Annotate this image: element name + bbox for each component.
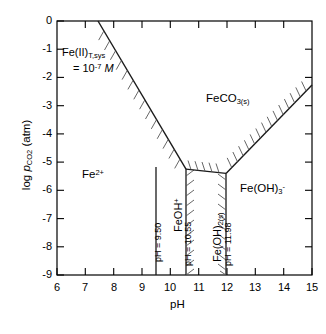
x-tick-8: 8 [102, 281, 126, 293]
y-axis-title-sub-co: CO [25, 154, 34, 165]
system-annotation-exponent: -7 [95, 62, 102, 71]
region-label-feco3: FeCO3(s) [206, 92, 250, 106]
region-fe2plus-main: Fe [82, 168, 95, 180]
x-tick-7: 7 [73, 281, 97, 293]
y-axis-title-units: (atm) [20, 120, 32, 150]
x-tick-13: 13 [243, 281, 267, 293]
y-tick-7: -7 [28, 212, 52, 224]
system-annotation-main: Fe(II) [62, 46, 88, 58]
boundary-fe2-feco3 [98, 21, 186, 169]
hatch-fe2-feco3 [99, 31, 180, 169]
x-axis-ticks [57, 268, 312, 275]
system-annotation-line1: Fe(II)T,sys [62, 46, 105, 60]
region-label-fe2plus: Fe2+ [82, 168, 104, 180]
boundary-label-ph-11-98: pH = 11.98 [223, 222, 233, 266]
x-axis-ticks-top [85, 21, 283, 28]
y-tick-0: 0 [28, 14, 52, 26]
system-annotation-line2: = 10-7 M [73, 62, 114, 74]
region-feoh3-main: Fe(OH) [240, 182, 278, 194]
system-annotation-subscript: T,sys [88, 51, 105, 60]
region-feco3-sub: 3(s) [237, 97, 250, 106]
x-tick-14: 14 [272, 281, 296, 293]
region-label-feoh3-anion: Fe(OH)3- [240, 182, 285, 196]
y-tick-2: -2 [28, 70, 52, 82]
x-tick-9: 9 [130, 281, 154, 293]
phase-diagram-figure: 0 -1 -2 -3 -4 -5 -6 -7 -8 -9 6 7 8 9 10 … [0, 0, 326, 334]
x-tick-15: 15 [300, 281, 324, 293]
x-axis-title: pH [170, 298, 185, 310]
y-axis-title: log pCO2 (atm) [20, 110, 34, 200]
region-feoh3-sup: - [283, 182, 286, 191]
boundary-label-ph-9-50: pH = 9.50 [153, 223, 163, 262]
x-tick-6: 6 [45, 281, 69, 293]
x-tick-10: 10 [158, 281, 182, 293]
x-tick-12: 12 [215, 281, 239, 293]
y-axis-title-log: log [20, 172, 32, 191]
y-tick-8: -8 [28, 240, 52, 252]
x-tick-11: 11 [187, 281, 211, 293]
y-axis-title-sub-2: 2 [25, 150, 34, 154]
x-axis-title-text: pH [170, 298, 185, 310]
region-feco3-main: FeCO [206, 92, 237, 104]
system-annotation-eq: = 10 [73, 62, 95, 74]
boundary-label-ph-10-55: pH = 10.55 [183, 222, 193, 266]
region-feoh-plus-sup: + [172, 198, 181, 202]
y-axis-ticks-right [305, 49, 312, 247]
region-feoh2-main: Fe(OH) [211, 225, 223, 262]
y-tick-9: -9 [28, 268, 52, 280]
region-fe2plus-sup: 2+ [95, 168, 104, 177]
system-annotation-unit: M [104, 62, 113, 74]
y-axis-title-p: p [20, 165, 32, 171]
y-tick-1: -1 [28, 42, 52, 54]
